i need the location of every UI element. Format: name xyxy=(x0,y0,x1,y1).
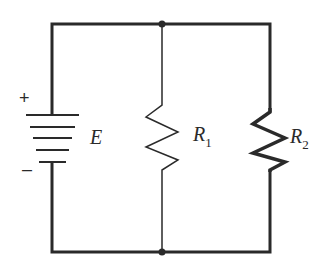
junction-bottom xyxy=(159,249,166,256)
circuit-diagram xyxy=(0,0,324,266)
resistor-r1 xyxy=(146,24,178,252)
wire-left-bottom xyxy=(52,162,270,252)
plus-sign: + xyxy=(19,89,30,107)
source-label: E xyxy=(90,127,102,147)
r1-subscript: 1 xyxy=(205,135,212,150)
r1-letter: R xyxy=(193,123,205,145)
junction-top xyxy=(159,21,166,28)
resistor-r2 xyxy=(253,108,285,172)
r1-label: R1 xyxy=(193,124,212,144)
r2-subscript: 2 xyxy=(302,137,309,152)
r2-letter: R xyxy=(290,125,302,147)
minus-sign: – xyxy=(22,160,32,178)
wire-left-top xyxy=(52,24,270,115)
r2-label: R2 xyxy=(290,126,309,146)
battery-icon xyxy=(26,115,79,162)
